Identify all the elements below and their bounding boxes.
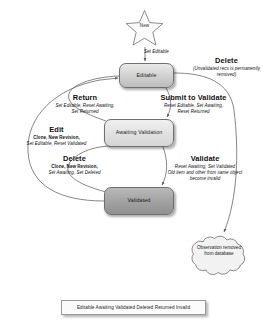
label-delete-validated-title: Delete (24, 155, 125, 163)
label-delete-editable: Delete (Unvalidated recs is permanently … (186, 57, 267, 77)
legend-bar: Editable Awaiting Validated Deleted Retu… (61, 300, 206, 315)
node-validated[interactable]: Validated (104, 187, 174, 215)
label-validate-actions-1: Reset Awaiting, Set Validated (146, 164, 264, 170)
node-new-start[interactable]: New (124, 9, 165, 47)
label-validate-actions-2: Old item and other from same object (146, 170, 264, 176)
label-submit-to-validate-actions-2: Reset Returned (141, 109, 246, 115)
label-submit-to-validate-actions-1: Reset Editable, Set Awaiting, (141, 103, 246, 109)
label-return-actions-2: Set Returned (36, 109, 134, 115)
label-validate-actions-3: become invalid (146, 176, 264, 182)
label-return-actions-1: Set Editable, Reset Awaiting, (36, 103, 134, 109)
node-observation-removed-label: Observation removed from database (192, 245, 246, 257)
node-awaiting-validation[interactable]: Awaiting Validation (104, 119, 174, 147)
label-edit-actions-2: Set Editable, Reset Validated (5, 141, 108, 147)
label-delete-validated-actions-1: Clone, New Revision, (24, 164, 125, 170)
label-delete-editable-title: Delete (186, 57, 267, 65)
node-observation-removed[interactable]: Observation removed from database (183, 232, 255, 280)
label-set-editable-actions: Set Editable (144, 49, 204, 55)
label-validate-title: Validate (146, 155, 264, 163)
node-new-label: New (124, 23, 165, 28)
node-editable[interactable]: Editable (119, 63, 174, 88)
node-awaiting-validation-label: Awaiting Validation (116, 130, 163, 135)
label-submit-to-validate-title: Submit to Validate (141, 94, 246, 102)
node-validated-label: Validated (128, 198, 151, 203)
label-set-editable: Set Editable (144, 49, 204, 55)
label-return-title: Return (36, 94, 134, 102)
label-delete-validated: Delete Clone, New Revision, Set Awaiting… (24, 155, 125, 176)
label-submit-to-validate: Submit to Validate Reset Editable, Set A… (141, 94, 246, 115)
label-edit: Edit Clone, New Revision, Set Editable, … (5, 126, 108, 147)
star-icon (124, 9, 165, 47)
label-return: Return Set Editable, Reset Awaiting, Set… (36, 94, 134, 115)
label-delete-validated-actions-2: Set Awaiting, Set Deleted (24, 170, 125, 176)
label-validate: Validate Reset Awaiting, Set Validated O… (146, 155, 264, 182)
state-diagram-canvas: New Editable Awaiting Validation Validat… (0, 0, 267, 335)
label-edit-actions-1: Clone, New Revision, (5, 135, 108, 141)
label-edit-title: Edit (5, 126, 108, 134)
legend-states-text: Editable Awaiting Validated Deleted Retu… (77, 305, 190, 310)
node-editable-label: Editable (136, 73, 156, 78)
label-delete-editable-actions: (Unvalidated recs is permanently removed… (186, 66, 267, 78)
